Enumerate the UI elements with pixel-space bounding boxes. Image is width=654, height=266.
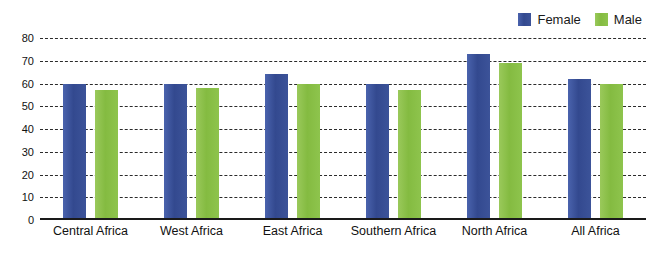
bar-male [196, 88, 219, 220]
bar-group [40, 38, 141, 220]
chart-legend: Female Male [518, 10, 642, 28]
bar-group [545, 38, 646, 220]
x-axis-label: All Africa [545, 224, 646, 238]
plot-area: 80706050403020100 Central AfricaWest Afr… [0, 38, 654, 266]
y-axis-tick-label: 10 [22, 192, 34, 203]
bar-male [297, 84, 320, 221]
legend-swatch-male [595, 13, 608, 26]
x-axis-label: West Africa [141, 224, 242, 238]
legend-item-male: Male [595, 13, 642, 26]
bars-layer [40, 38, 646, 220]
x-axis-label: East Africa [242, 224, 343, 238]
x-axis-labels: Central AfricaWest AfricaEast AfricaSout… [40, 224, 646, 238]
bar-female [265, 74, 288, 220]
y-axis-tick-label: 20 [22, 169, 34, 180]
x-axis-label: North Africa [444, 224, 545, 238]
x-axis-label: Southern Africa [343, 224, 444, 238]
y-axis-tick-label: 30 [22, 146, 34, 157]
bar-female [467, 54, 490, 220]
bar-male [95, 90, 118, 220]
bar-female [63, 84, 86, 221]
legend-label-male: Male [614, 13, 642, 26]
x-axis-label: Central Africa [40, 224, 141, 238]
bar-group [343, 38, 444, 220]
bar-male [398, 90, 421, 220]
grid-area [40, 38, 646, 220]
y-axis-tick-label: 40 [22, 124, 34, 135]
bar-female [568, 79, 591, 220]
bar-male [600, 84, 623, 221]
legend-item-female: Female [518, 13, 580, 26]
y-axis-tick-label: 70 [22, 55, 34, 66]
bar-chart: Female Male 80706050403020100 Central Af… [0, 0, 654, 266]
y-axis-tick-label: 60 [22, 78, 34, 89]
legend-swatch-female [518, 13, 531, 26]
x-axis-line [40, 218, 646, 220]
bar-group [242, 38, 343, 220]
bar-female [366, 84, 389, 221]
legend-label-female: Female [537, 13, 580, 26]
y-axis-tick-label: 50 [22, 101, 34, 112]
bar-male [499, 63, 522, 220]
bar-female [164, 84, 187, 221]
y-axis-tick-label: 80 [22, 33, 34, 44]
y-axis-tick-label: 0 [28, 215, 34, 226]
bar-group [444, 38, 545, 220]
bar-group [141, 38, 242, 220]
y-axis: 80706050403020100 [0, 38, 38, 220]
